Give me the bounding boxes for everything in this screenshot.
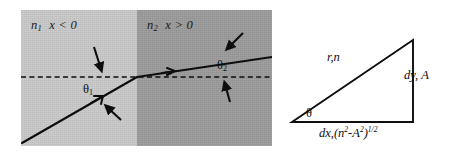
triangle-label-hypotenuse: r,n: [327, 50, 340, 65]
refraction-figure: n1x < 0 n2x > 0: [0, 0, 464, 156]
angle-label-theta2: θ2: [217, 58, 227, 73]
incident-ray: [22, 77, 137, 143]
pointer-to-axis-left: [94, 47, 101, 69]
triangle-panel: r,n dy, A θ dx,(n2-A2)1/2: [282, 14, 460, 146]
pointer-to-incident-ray: [107, 107, 121, 120]
triangle-label-horizontal-leg: dx,(n2-A2)1/2: [319, 126, 377, 141]
pointer-to-axis-right: [225, 84, 230, 102]
incident-ray-arrowhead: [91, 96, 103, 104]
triangle-label-vertical-leg: dy, A: [404, 68, 429, 83]
angle-label-theta1: θ1: [83, 82, 93, 97]
refracted-ray: [137, 57, 272, 77]
dx-sup-half: 1/2: [368, 125, 378, 134]
refraction-artwork: [21, 10, 272, 146]
pointer-to-refracted-ray: [228, 33, 243, 48]
theta1-subscript: 1: [89, 88, 93, 97]
dx-prefix: dx,(n: [319, 126, 344, 140]
theta2-subscript: 2: [223, 64, 227, 73]
refraction-panel: n1x < 0 n2x > 0: [21, 10, 272, 146]
triangle-label-angle: θ: [306, 106, 312, 121]
dx-mid: -A: [348, 126, 360, 140]
